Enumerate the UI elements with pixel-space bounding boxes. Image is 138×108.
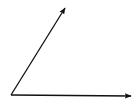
angle-diagram [0,0,138,108]
background [0,0,138,108]
